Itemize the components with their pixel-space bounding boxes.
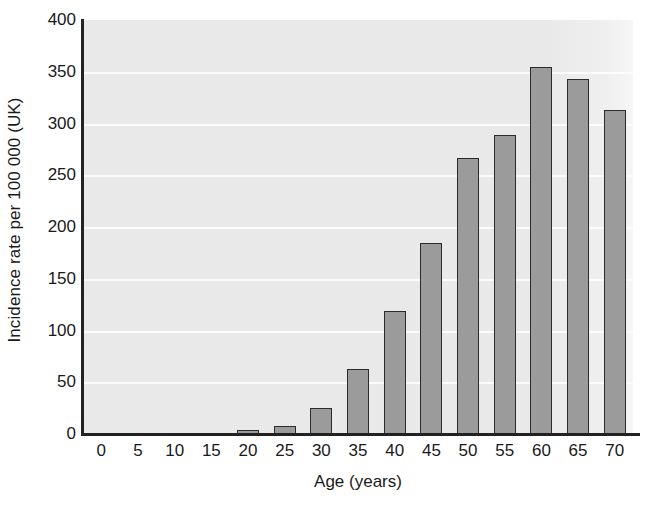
y-axis-line — [81, 19, 84, 435]
bar-slot — [376, 20, 413, 434]
y-tick-label: 0 — [67, 424, 76, 444]
x-tick-label: 50 — [450, 441, 487, 461]
y-tick-label: 250 — [48, 165, 76, 185]
x-tick-label: 10 — [156, 441, 193, 461]
y-axis-title: Incidence rate per 100 000 (UK) — [0, 0, 30, 440]
plot-area — [83, 20, 633, 434]
x-axis-title: Age (years) — [83, 472, 633, 492]
y-tick-label: 150 — [48, 269, 76, 289]
bar-slot — [486, 20, 523, 434]
x-tick-label: 65 — [560, 441, 597, 461]
x-tick-label: 60 — [523, 441, 560, 461]
bar[interactable] — [494, 135, 516, 434]
bar-slot — [266, 20, 303, 434]
y-tick-label: 50 — [57, 372, 76, 392]
bar-slot — [156, 20, 193, 434]
x-tick-label: 45 — [413, 441, 450, 461]
x-tick-label: 0 — [83, 441, 120, 461]
y-axis-tick-labels: 050100150200250300350400 — [30, 20, 76, 434]
bar[interactable] — [347, 369, 369, 434]
x-tick-label: 20 — [230, 441, 267, 461]
y-tick-label: 300 — [48, 114, 76, 134]
bar[interactable] — [567, 79, 589, 434]
bar-slot — [560, 20, 597, 434]
bar-slot — [523, 20, 560, 434]
x-tick-label: 35 — [340, 441, 377, 461]
bar-slot — [193, 20, 230, 434]
y-tick-label: 100 — [48, 321, 76, 341]
x-tick-label: 5 — [120, 441, 157, 461]
x-axis-line — [81, 433, 640, 436]
bar-slot — [340, 20, 377, 434]
x-tick-label: 25 — [266, 441, 303, 461]
bar[interactable] — [420, 243, 442, 434]
x-tick-label: 15 — [193, 441, 230, 461]
bar-slot — [596, 20, 633, 434]
bar-series — [83, 20, 633, 434]
y-tick-label: 350 — [48, 62, 76, 82]
x-tick-label: 70 — [596, 441, 633, 461]
bar-slot — [413, 20, 450, 434]
bar-slot — [120, 20, 157, 434]
bar-slot — [83, 20, 120, 434]
x-axis-tick-labels: 0510152025303540455055606570 — [83, 441, 633, 461]
bar[interactable] — [457, 158, 479, 434]
bar[interactable] — [384, 311, 406, 434]
y-tick-label: 400 — [48, 10, 76, 30]
y-tick-label: 200 — [48, 217, 76, 237]
bar[interactable] — [604, 110, 626, 434]
bar[interactable] — [310, 408, 332, 434]
bar-slot — [303, 20, 340, 434]
x-tick-label: 55 — [486, 441, 523, 461]
x-tick-label: 40 — [376, 441, 413, 461]
bar-slot — [230, 20, 267, 434]
bar-chart-figure: Incidence rate per 100 000 (UK) 05010015… — [0, 0, 648, 507]
bar[interactable] — [530, 67, 552, 434]
x-tick-label: 30 — [303, 441, 340, 461]
bar-slot — [450, 20, 487, 434]
